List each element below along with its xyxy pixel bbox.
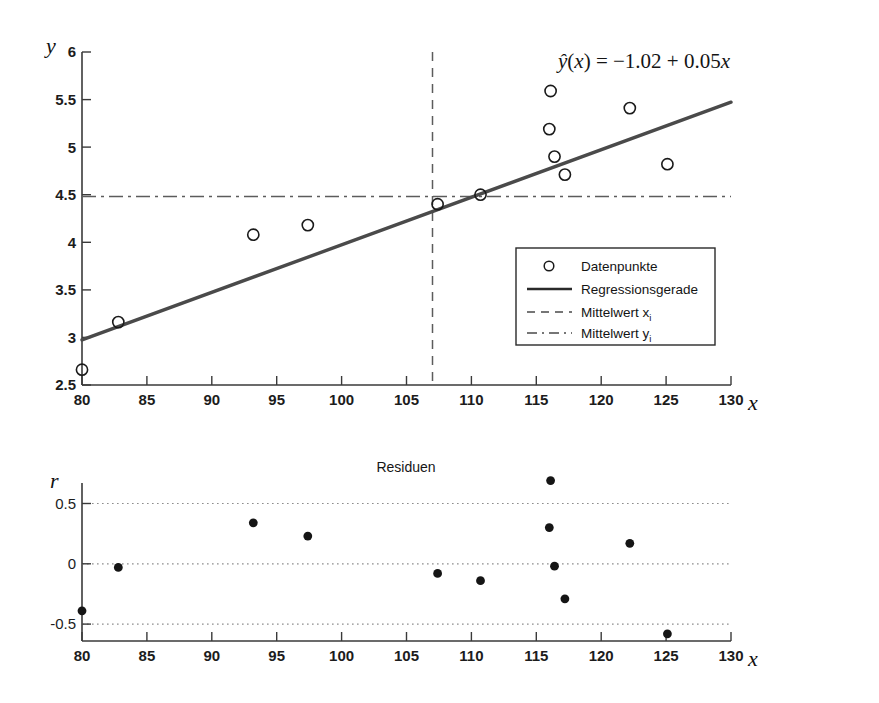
data-point (624, 103, 635, 114)
x-tick-label: 85 (139, 391, 156, 408)
x-tick-label: 120 (589, 391, 614, 408)
y-tick-label: 3 (68, 329, 76, 346)
residual-point (249, 518, 258, 527)
data-point (248, 229, 259, 240)
legend-label-regression: Regressionsgerade (581, 282, 698, 297)
residual-y-tick-label: 0.5 (55, 495, 76, 512)
x-axis-title: x (747, 390, 758, 415)
x-tick-label: 90 (203, 391, 220, 408)
residual-x-tick-label: 95 (268, 647, 285, 664)
y-axis-ticks (82, 52, 91, 385)
scatter-plot-panel: y 2.5 3 3.5 4 4.5 5 5.5 6 (44, 33, 758, 415)
residual-x-ticks (82, 632, 731, 641)
x-tick-label: 115 (524, 391, 548, 408)
y-tick-label: 5.5 (55, 91, 76, 108)
residual-y-axis-title: r (50, 468, 59, 493)
residual-y-ticks (82, 504, 91, 625)
residual-point (433, 569, 442, 578)
x-tick-label: 125 (654, 391, 679, 408)
x-tick-label: 100 (329, 391, 354, 408)
legend: Datenpunkte Regressionsgerade Mittelwert… (516, 248, 715, 345)
y-tick-label: 4 (68, 234, 77, 251)
residual-y-tick-label: 0 (68, 555, 76, 572)
residual-x-tick-label: 115 (524, 647, 548, 664)
data-point (302, 220, 313, 231)
x-tick-label: 105 (394, 391, 419, 408)
residual-point-group (78, 476, 672, 638)
residual-x-tick-label: 105 (394, 647, 419, 664)
x-tick-label: 80 (74, 391, 91, 408)
residual-point (114, 563, 123, 572)
residual-gridlines (82, 504, 731, 625)
residual-x-tick-label: 80 (74, 647, 91, 664)
regression-figure: y 2.5 3 3.5 4 4.5 5 5.5 6 (0, 0, 879, 703)
residual-x-tick-label: 125 (654, 647, 679, 664)
residual-x-axis-title: x (747, 646, 758, 671)
y-axis-title: y (44, 33, 56, 58)
y-tick-label: 6 (68, 43, 76, 60)
residual-point (303, 532, 312, 541)
residual-point (546, 476, 555, 485)
residual-x-tick-label: 120 (589, 647, 614, 664)
y-tick-label: 5 (68, 139, 76, 156)
residual-point (663, 629, 672, 638)
residual-x-tick-label: 130 (718, 647, 743, 664)
residual-x-tick-label: 110 (459, 647, 483, 664)
data-point (544, 124, 555, 135)
residual-point (545, 523, 554, 532)
residual-point (625, 539, 634, 548)
residual-point (561, 594, 570, 603)
residual-plot-title: Residuen (376, 459, 435, 475)
residual-y-tick-label: -0.5 (50, 615, 76, 632)
data-point (662, 159, 673, 170)
residual-point (476, 576, 485, 585)
x-tick-label: 130 (718, 391, 743, 408)
residual-point (550, 562, 559, 571)
legend-label-datapoints: Datenpunkte (581, 259, 658, 274)
y-tick-label: 3.5 (55, 281, 76, 298)
residual-x-tick-label: 90 (203, 647, 220, 664)
x-tick-label: 95 (268, 391, 285, 408)
x-tick-label: 110 (459, 391, 483, 408)
residual-x-tick-label: 85 (139, 647, 156, 664)
data-point (549, 151, 560, 162)
residual-plot-panel: Residuen r 0.5 0 -0.5 (50, 459, 758, 671)
data-point (545, 85, 556, 96)
data-point (559, 169, 570, 180)
residual-point (78, 606, 87, 615)
y-tick-label: 4.5 (55, 186, 76, 203)
figure-canvas: y 2.5 3 3.5 4 4.5 5 5.5 6 (0, 0, 879, 703)
regression-equation-annotation: ŷ(x) = −1.02 + 0.05x (556, 49, 731, 73)
residual-x-tick-label: 100 (329, 647, 354, 664)
x-axis-ticks (82, 376, 731, 385)
